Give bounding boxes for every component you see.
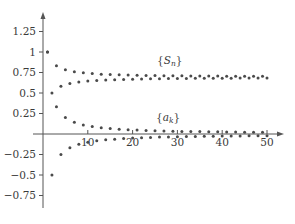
- series-label-partial-sums: {Sn}: [157, 54, 182, 68]
- data-point: [86, 80, 89, 83]
- data-point: [140, 77, 143, 80]
- data-point: [212, 77, 215, 80]
- axes: [33, 12, 284, 208]
- data-point: [261, 75, 264, 78]
- data-point: [154, 129, 157, 132]
- data-point: [180, 74, 183, 77]
- data-point: [149, 77, 152, 80]
- data-point: [68, 146, 71, 149]
- data-point: [122, 78, 125, 81]
- data-point: [158, 136, 161, 139]
- data-point: [95, 79, 98, 82]
- data-point: [113, 138, 116, 141]
- data-point: [185, 135, 188, 138]
- data-point: [104, 78, 107, 81]
- data-point: [167, 77, 170, 80]
- y-axis-ticks: 1.2510.750.50.25−0.25−0.5−0.75: [4, 25, 43, 201]
- data-point: [91, 72, 94, 75]
- data-point: [257, 134, 260, 137]
- data-point: [127, 128, 130, 131]
- data-point: [131, 137, 134, 140]
- data-point: [55, 64, 58, 67]
- y-tick-label: −0.5: [11, 169, 37, 181]
- data-point: [261, 131, 264, 134]
- data-point: [171, 130, 174, 133]
- y-tick-label: −0.25: [4, 148, 36, 160]
- data-point: [243, 131, 246, 134]
- data-point: [82, 71, 85, 74]
- data-point: [86, 141, 89, 144]
- data-point: [50, 92, 53, 95]
- data-point: [127, 74, 130, 77]
- y-tick-label: 1: [29, 46, 36, 58]
- data-point: [203, 135, 206, 138]
- data-point: [64, 68, 67, 71]
- data-point: [248, 134, 251, 137]
- data-point: [100, 73, 103, 76]
- data-point: [167, 135, 170, 138]
- y-tick-label: 0.75: [13, 66, 36, 78]
- data-point: [145, 129, 148, 132]
- data-point: [194, 77, 197, 80]
- y-tick-label: 0.25: [13, 107, 36, 119]
- data-point: [198, 75, 201, 78]
- data-point: [162, 74, 165, 77]
- data-point: [46, 51, 49, 54]
- data-point: [109, 73, 112, 76]
- data-point: [131, 78, 134, 81]
- data-point: [73, 121, 76, 124]
- data-point: [77, 143, 80, 146]
- x-axis-arrow-icon: [277, 132, 284, 137]
- data-point: [55, 105, 58, 108]
- data-point: [239, 77, 242, 80]
- data-point: [59, 85, 62, 88]
- data-point: [68, 82, 71, 85]
- data-point: [243, 75, 246, 78]
- data-point: [225, 75, 228, 78]
- data-point: [221, 77, 224, 80]
- data-point: [91, 125, 94, 128]
- data-point: [113, 78, 116, 81]
- convergence-scatter-chart: 1.2510.750.50.25−0.25−0.5−0.75 102030405…: [0, 0, 295, 224]
- data-point: [189, 130, 192, 133]
- data-point: [158, 77, 161, 80]
- data-point: [104, 138, 107, 141]
- data-point: [221, 135, 224, 138]
- data-point: [189, 74, 192, 77]
- data-point: [140, 136, 143, 139]
- data-point: [207, 75, 210, 78]
- data-point: [252, 75, 255, 78]
- data-point: [136, 129, 139, 132]
- data-point: [230, 134, 233, 137]
- data-point: [118, 73, 121, 76]
- data-point: [230, 77, 233, 80]
- data-point: [185, 77, 188, 80]
- data-point: [95, 139, 98, 142]
- data-point: [239, 134, 242, 137]
- data-point: [149, 136, 152, 139]
- data-point: [64, 116, 67, 119]
- data-point: [59, 153, 62, 156]
- x-tick-label: 40: [216, 136, 229, 148]
- data-point: [266, 134, 269, 137]
- y-tick-label: −0.75: [4, 189, 36, 201]
- data-point: [162, 129, 165, 132]
- data-point: [198, 130, 201, 133]
- data-point: [194, 135, 197, 138]
- data-point: [216, 130, 219, 133]
- data-point: [216, 75, 219, 78]
- data-point: [266, 76, 269, 79]
- data-point: [118, 128, 121, 131]
- data-point: [234, 131, 237, 134]
- series-label-terms: {ak}: [156, 111, 180, 125]
- data-point: [77, 80, 80, 83]
- data-point: [252, 131, 255, 134]
- data-point: [203, 77, 206, 80]
- data-point: [154, 74, 157, 77]
- data-point: [109, 127, 112, 130]
- y-tick-label: 0.5: [19, 87, 36, 99]
- data-point: [234, 75, 237, 78]
- data-point: [176, 77, 179, 80]
- x-tick-label: 50: [260, 136, 273, 148]
- data-point: [100, 126, 103, 129]
